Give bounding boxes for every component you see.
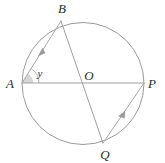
point-label-P: P: [147, 76, 156, 91]
angle-label-y: y: [37, 67, 43, 79]
geometry-diagram: A B O P Q y: [0, 0, 165, 163]
segment-BQ-diameter: [61, 21, 103, 143]
arrow-head-qp-icon: [119, 111, 125, 118]
point-label-Q: Q: [100, 147, 110, 162]
circle-geometry-svg: A B O P Q y: [0, 0, 165, 163]
point-label-A: A: [5, 76, 14, 91]
arrow-head-ab-icon: [38, 48, 45, 56]
point-label-O: O: [84, 68, 94, 83]
point-label-B: B: [58, 1, 66, 16]
